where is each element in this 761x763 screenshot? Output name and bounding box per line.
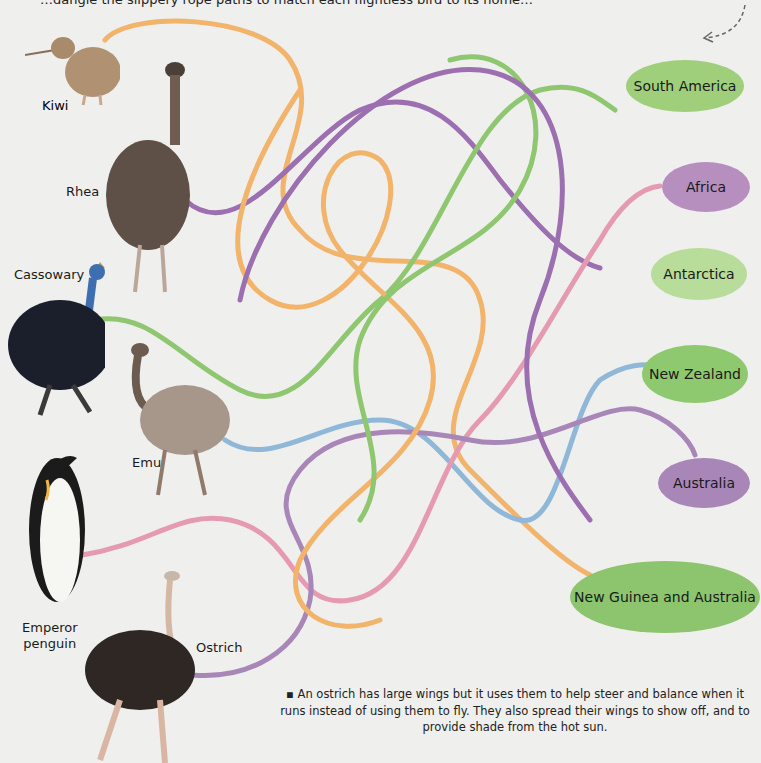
ostrich-illustration xyxy=(80,570,195,763)
destination-label: New Guinea and Australia xyxy=(574,589,756,605)
emu-label: Emu xyxy=(132,455,161,471)
destination-south-america[interactable]: South America xyxy=(626,60,744,112)
destination-africa[interactable]: Africa xyxy=(662,162,750,212)
emperor-penguin-illustration xyxy=(22,450,87,610)
emu-illustration xyxy=(120,340,230,500)
destination-new-zealand[interactable]: New Zealand xyxy=(642,345,748,403)
fact-text: An ostrich has large wings but it uses t… xyxy=(280,687,750,734)
ostrich-fact: ▪ An ostrich has large wings but it uses… xyxy=(280,686,750,736)
destination-australia[interactable]: Australia xyxy=(658,458,750,508)
cassowary-illustration xyxy=(5,250,105,420)
destination-label: Antarctica xyxy=(663,266,734,282)
rhea-label: Rhea xyxy=(66,184,99,200)
emperor-penguin-label-line1: Emperor xyxy=(22,620,78,636)
destination-antarctica[interactable]: Antarctica xyxy=(651,248,747,300)
destination-new-guinea-and-australia[interactable]: New Guinea and Australia xyxy=(570,561,760,633)
ostrich-label: Ostrich xyxy=(196,640,242,656)
destination-label: New Zealand xyxy=(649,366,741,382)
emperor-penguin-label-line2: penguin xyxy=(22,636,78,652)
destination-label: South America xyxy=(634,78,737,94)
destination-label: Australia xyxy=(673,475,735,491)
destination-label: Africa xyxy=(686,179,726,195)
emperor-penguin-label: Emperor penguin xyxy=(22,620,78,651)
kiwi-label: Kiwi xyxy=(42,98,68,113)
fact-bullet: ▪ xyxy=(286,687,294,701)
rhea-illustration xyxy=(100,60,190,295)
